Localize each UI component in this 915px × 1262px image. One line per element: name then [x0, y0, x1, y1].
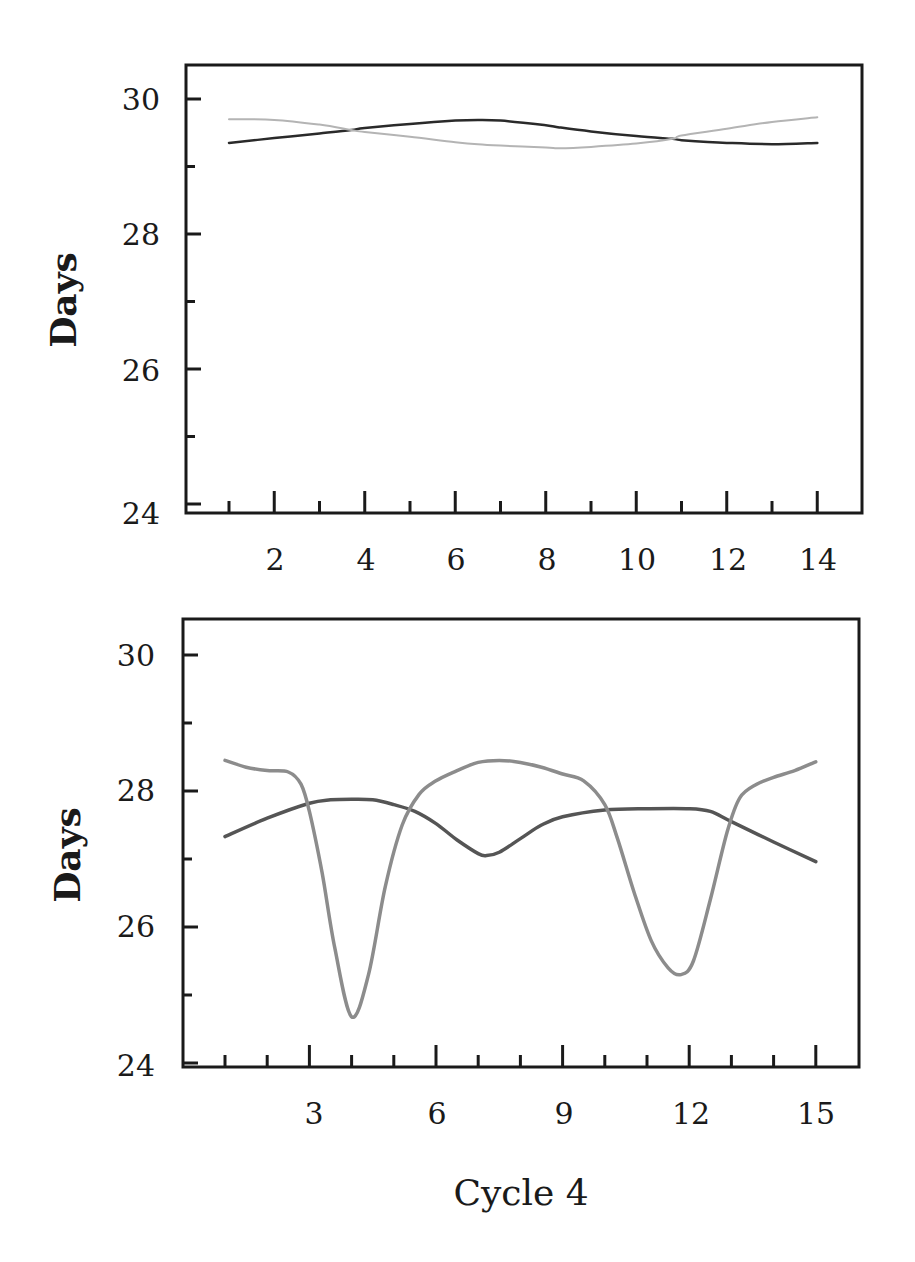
top-ytick-30: 30 [122, 82, 160, 117]
top-y-axis-title: Days [42, 252, 84, 348]
top-xtick-6: 6 [446, 542, 465, 577]
top-xtick-10: 10 [618, 542, 656, 577]
top-xtick-4: 4 [356, 542, 375, 577]
bottom-ytick-24: 24 [117, 1048, 155, 1083]
top-x-axis-ticks [229, 491, 817, 513]
top-plot-lines [229, 117, 817, 148]
bottom-plot-lines [225, 760, 816, 1017]
bottom-xtick-9: 9 [554, 1096, 573, 1131]
top-ytick-28: 28 [122, 217, 160, 252]
bottom-x-axis-ticks [225, 1045, 816, 1067]
bottom-y-axis-ticks [183, 655, 198, 1063]
top-plot-frame [186, 65, 862, 513]
bottom-ytick-28: 28 [117, 773, 155, 808]
top-xtick-2: 2 [265, 542, 284, 577]
bottom-xtick-6: 6 [427, 1096, 446, 1131]
bottom-y-tick-labels: 30 28 26 24 [117, 638, 155, 1083]
bottom-chart: 30 28 26 24 3 6 9 12 15 Days Cycle 4 [46, 619, 859, 1213]
top-xtick-12: 12 [709, 542, 747, 577]
top-xtick-8: 8 [537, 542, 556, 577]
bottom-plot-frame [183, 619, 859, 1067]
top-y-axis-ticks [186, 99, 201, 504]
bottom-xtick-3: 3 [304, 1096, 323, 1131]
bottom-xtick-15: 15 [797, 1096, 835, 1131]
bottom-y-axis-title: Days [46, 807, 88, 903]
bottom-x-axis-title: Cycle 4 [453, 1172, 588, 1213]
bottom-xtick-12: 12 [672, 1096, 710, 1131]
top-x-tick-labels: 2 4 6 8 10 12 14 [265, 542, 837, 577]
top-chart: 30 28 26 24 2 4 6 8 10 12 14 Days [42, 65, 862, 577]
bottom-ytick-26: 26 [117, 909, 155, 944]
bottom-x-tick-labels: 3 6 9 12 15 [304, 1096, 835, 1131]
top-xtick-14: 14 [799, 542, 837, 577]
top-y-tick-labels: 30 28 26 24 [122, 82, 160, 531]
top-ytick-26: 26 [122, 353, 160, 388]
figure: 30 28 26 24 2 4 6 8 10 12 14 Days 30 28 … [0, 0, 915, 1262]
top-ytick-24: 24 [122, 496, 160, 531]
bottom-light-series-line [225, 760, 816, 1017]
bottom-ytick-30: 30 [117, 638, 155, 673]
